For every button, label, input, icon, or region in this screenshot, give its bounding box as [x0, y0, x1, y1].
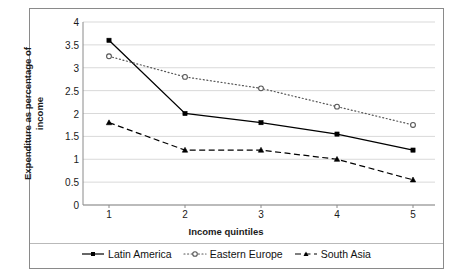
legend-point-marker — [91, 252, 95, 256]
chart-legend: Latin AmericaEastern EuropeSouth Asia — [0, 248, 452, 260]
data-point-marker — [259, 121, 263, 125]
legend-marker-icon — [81, 249, 105, 259]
legend-point-marker — [192, 252, 197, 257]
legend-item-eastern-europe[interactable]: Eastern Europe — [183, 248, 283, 260]
legend-item-label: Eastern Europe — [210, 248, 283, 260]
x-axis-title: Income quintiles — [0, 226, 452, 237]
data-point-marker — [411, 148, 415, 152]
data-point-marker — [259, 86, 264, 91]
data-point-marker — [107, 38, 111, 42]
legend-item-label: Latin America — [108, 248, 172, 260]
chart-figure: Expenditure as percentage of income 00.5… — [0, 0, 452, 279]
x-tick-label: 1 — [94, 209, 124, 220]
series-line — [109, 40, 413, 150]
legend-marker-icon — [183, 249, 207, 259]
x-tick-label: 5 — [398, 209, 428, 220]
legend-item-label: South Asia — [321, 248, 371, 260]
x-tick-label: 4 — [322, 209, 352, 220]
legend-item-south-asia[interactable]: South Asia — [294, 248, 371, 260]
data-point-marker — [410, 177, 415, 182]
series-latin-america — [107, 38, 415, 152]
data-point-marker — [106, 120, 111, 125]
plot-canvas — [0, 0, 452, 279]
data-point-marker — [335, 104, 340, 109]
legend-separator — [30, 243, 443, 244]
series-south-asia — [106, 120, 415, 182]
data-point-marker — [411, 123, 416, 128]
legend-marker-icon — [294, 249, 318, 259]
data-point-marker — [183, 75, 188, 80]
data-point-marker — [183, 111, 187, 115]
data-point-marker — [107, 54, 112, 59]
legend-item-latin-america[interactable]: Latin America — [81, 248, 172, 260]
data-point-marker — [335, 132, 339, 136]
x-tick-label: 3 — [246, 209, 276, 220]
x-tick-label: 2 — [170, 209, 200, 220]
